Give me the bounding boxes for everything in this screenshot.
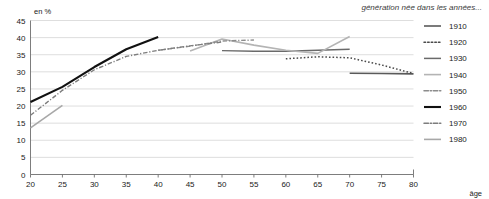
y-tick-label: 45 bbox=[17, 17, 26, 26]
legend-label-1920: 1920 bbox=[449, 38, 467, 47]
x-tick-label: 40 bbox=[154, 180, 163, 189]
x-tick-label: 20 bbox=[26, 180, 35, 189]
legend-label-1960: 1960 bbox=[449, 103, 467, 112]
x-tick-label: 70 bbox=[345, 180, 354, 189]
y-tick-label: 30 bbox=[17, 68, 26, 77]
y-tick-label: 20 bbox=[17, 102, 26, 111]
legend-label-1980: 1980 bbox=[449, 135, 467, 144]
gridlines bbox=[31, 21, 414, 158]
chart-canvas: 051015202530354045 202530354045505560657… bbox=[0, 0, 489, 199]
legend-label-1940: 1940 bbox=[449, 71, 467, 80]
y-tick-label: 25 bbox=[17, 85, 26, 94]
legend: 19101920193019401950196019701980 bbox=[424, 22, 467, 144]
y-tick-label: 35 bbox=[17, 51, 26, 60]
x-tick-label: 65 bbox=[313, 180, 322, 189]
x-tick-label: 75 bbox=[377, 180, 386, 189]
x-tick-label: 45 bbox=[186, 180, 195, 189]
series-line-1980 bbox=[31, 105, 63, 128]
x-tick-labels: 20253035404550556065707580 bbox=[26, 180, 418, 189]
y-tick-labels: 051015202530354045 bbox=[17, 17, 26, 180]
x-tick-label: 25 bbox=[58, 180, 67, 189]
x-tick-label: 80 bbox=[409, 180, 418, 189]
y-tick-label: 40 bbox=[17, 34, 26, 43]
chart-title: génération née dans les années... bbox=[361, 3, 482, 12]
legend-label-1950: 1950 bbox=[449, 87, 467, 96]
x-tick-label: 60 bbox=[281, 180, 290, 189]
y-tick-label: 10 bbox=[17, 136, 26, 145]
series-line-1910 bbox=[350, 73, 414, 74]
x-axis-label: âge bbox=[469, 189, 482, 198]
y-tick-label: 5 bbox=[21, 153, 26, 162]
x-tick-label: 50 bbox=[218, 180, 227, 189]
legend-label-1910: 1910 bbox=[449, 22, 467, 31]
series-line-1920 bbox=[286, 57, 414, 74]
series-line-1970 bbox=[31, 42, 223, 115]
legend-label-1970: 1970 bbox=[449, 119, 467, 128]
y-tick-label: 0 bbox=[21, 171, 26, 180]
y-tick-label: 15 bbox=[17, 119, 26, 128]
legend-label-1930: 1930 bbox=[449, 54, 467, 63]
x-tick-label: 35 bbox=[122, 180, 131, 189]
axes bbox=[31, 21, 414, 178]
x-tick-label: 55 bbox=[249, 180, 258, 189]
x-tick-label: 30 bbox=[90, 180, 99, 189]
line-chart: 051015202530354045 202530354045505560657… bbox=[0, 0, 489, 199]
y-axis-unit-label: en % bbox=[34, 7, 51, 16]
data-series bbox=[31, 37, 414, 128]
